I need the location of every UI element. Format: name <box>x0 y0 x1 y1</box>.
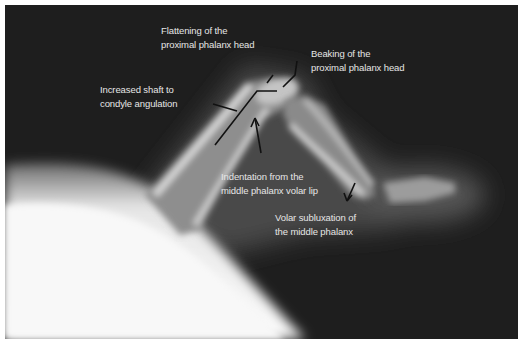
label-indentation-line1: Indentation from the <box>221 170 318 184</box>
xray-image: Flattening of the proximal phalanx head … <box>5 5 518 339</box>
label-flattening-line1: Flattening of the <box>161 24 255 38</box>
label-subluxation: Volar subluxation of the middle phalanx <box>275 211 356 239</box>
label-angulation-line1: Increased shaft to <box>100 83 177 97</box>
label-beaking-line1: Beaking of the <box>311 47 405 61</box>
label-flattening: Flattening of the proximal phalanx head <box>161 24 255 52</box>
label-angulation: Increased shaft to condyle angulation <box>100 83 177 111</box>
label-angulation-line2: condyle angulation <box>100 97 177 111</box>
label-flattening-line2: proximal phalanx head <box>161 38 255 52</box>
label-indentation: Indentation from the middle phalanx vola… <box>221 170 318 198</box>
label-beaking-line2: proximal phalanx head <box>311 61 405 75</box>
label-indentation-line2: middle phalanx volar lip <box>221 184 318 198</box>
label-beaking: Beaking of the proximal phalanx head <box>311 47 405 75</box>
label-subluxation-line2: the middle phalanx <box>275 225 356 239</box>
label-subluxation-line1: Volar subluxation of <box>275 211 356 225</box>
